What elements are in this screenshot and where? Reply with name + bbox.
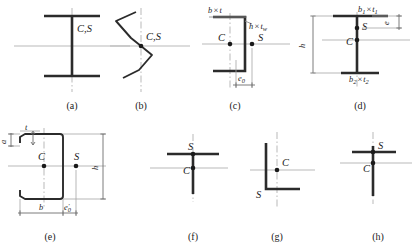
panel-g: C S (g) (250, 132, 315, 243)
panel-h-caption: (h) (372, 231, 384, 243)
panel-c-flange-t: t (219, 6, 222, 15)
panel-c-web-dimension: h×tw (245, 21, 268, 32)
panel-e-shear-centre-label: S (74, 151, 80, 162)
panel-c-centroid-label: C (218, 32, 226, 43)
panel-b: C,S (b) (110, 8, 190, 112)
panel-e-centroid-marker (42, 164, 47, 169)
panel-b-point-marker (139, 44, 144, 49)
panel-c-caption: (c) (229, 100, 240, 112)
panel-d-t2-sub: 2 (366, 78, 370, 85)
panel-d-height-label: h (298, 44, 307, 48)
panel-c-web-t-sub: w (263, 25, 268, 32)
panel-d-shear-centre-marker (355, 26, 360, 31)
panel-c-shear-centre-label: S (258, 32, 264, 43)
panel-h-shear-centre-marker (371, 150, 376, 155)
panel-h-centroid-marker (371, 161, 376, 166)
panel-e-centroid-label: C (38, 151, 46, 162)
panel-d-bottom-times: × (357, 74, 362, 84)
panel-c-flange-dimension: b×t (208, 5, 247, 17)
panel-d-top-flange-dimension: b1×t1 (358, 4, 378, 15)
panel-a: C,S (a) (14, 8, 130, 112)
panel-h: S C (h) (340, 132, 412, 243)
panel-d-t1-sub: 1 (375, 8, 378, 15)
panel-e-height-label: h (91, 166, 100, 170)
panel-f-shear-centre-marker (191, 152, 196, 157)
panel-g-caption: (g) (271, 231, 283, 243)
panel-d-bottom-flange-dimension: b2×t2 (349, 74, 370, 85)
figure-canvas: C,S (a) C,S (b) C S b×t (0, 0, 417, 251)
panel-d-centroid-marker (355, 38, 360, 43)
panel-g-centroid-label: C (282, 157, 290, 168)
panel-c: C S b×t h×tw (202, 5, 290, 112)
panel-b-point-label: C,S (146, 31, 162, 42)
panel-d-offset-label: e (382, 21, 391, 25)
panel-c-flange-times: × (213, 5, 218, 15)
panel-f-centroid-label: C (183, 165, 191, 176)
panel-d: S C b1×t1 b2×t2 h (298, 4, 410, 112)
panel-f-shear-centre-label: S (188, 141, 194, 152)
panel-a-point-label: C,S (77, 23, 93, 34)
panel-d-shear-centre-label: S (362, 21, 368, 32)
panel-b-z-profile (116, 12, 152, 78)
cross-section-figure: C,S (a) C,S (b) C S b×t (0, 0, 417, 251)
panel-c-shear-centre-marker (250, 42, 255, 47)
panel-e-eccentricity-label: e0′ (64, 202, 72, 213)
panel-f-centroid-marker (191, 166, 196, 171)
panel-d-b1-sub: 1 (362, 8, 365, 15)
panel-e-lip-dimension: a (0, 133, 20, 147)
panel-d-height-dimension: h (298, 16, 341, 73)
panel-c-web-times: × (254, 21, 259, 31)
panel-e: C S t a h (0, 123, 106, 243)
panel-a-caption: (a) (66, 100, 77, 112)
panel-c-centroid-marker (228, 42, 233, 47)
svg-text:e0: e0 (238, 74, 246, 84)
svg-text:h×tw: h×tw (249, 21, 268, 32)
svg-text:b×t: b×t (208, 5, 222, 15)
panel-c-flange-b: b (208, 6, 212, 15)
panel-b-caption: (b) (135, 100, 147, 112)
panel-d-centroid-label: C (346, 36, 354, 47)
panel-e-shear-centre-marker (74, 164, 79, 169)
panel-c-e-sub: 0 (242, 77, 246, 84)
panel-f: S C (f) (150, 134, 228, 243)
panel-f-caption: (f) (188, 231, 198, 243)
panel-e-width-dimension: b e0′ (18, 170, 78, 216)
panel-d-top-times: × (366, 4, 371, 14)
panel-h-centroid-label: C (363, 163, 371, 174)
panel-c-web-h: h (249, 22, 253, 31)
panel-e-lip-label: a (0, 140, 8, 144)
panel-g-shear-centre-label: S (256, 189, 262, 200)
panel-h-shear-centre-label: S (378, 140, 384, 151)
panel-e-caption: (e) (44, 231, 55, 243)
panel-d-caption: (d) (354, 100, 366, 112)
panel-e-width-label: b (39, 203, 43, 212)
panel-g-centroid-marker (275, 168, 280, 173)
